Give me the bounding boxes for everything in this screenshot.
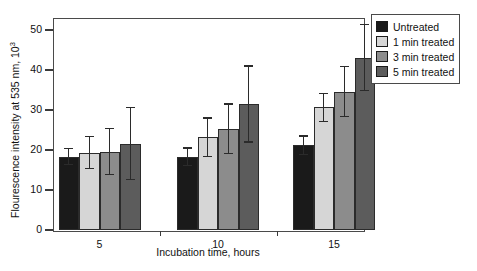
legend-item: 5 min treated (376, 64, 454, 79)
legend-item: Untreated (376, 19, 454, 34)
bar (293, 145, 314, 230)
error-bar-cap-lower (340, 116, 349, 117)
error-bar-cap-upper (319, 93, 328, 94)
legend-item: 3 min treated (376, 49, 454, 64)
error-bar-cap-upper (85, 136, 94, 137)
x-axis-label: Incubation time, hours (53, 246, 363, 258)
chart-legend: Untreated1 min treated3 min treated5 min… (371, 14, 460, 84)
error-bar-stem (228, 104, 229, 154)
legend-swatch (376, 21, 388, 32)
x-axis-tick (160, 231, 161, 236)
legend-item-label: Untreated (393, 21, 439, 33)
error-bar-cap-upper (244, 65, 253, 66)
error-bar-stem (109, 128, 110, 174)
error-bar-cap-lower (126, 179, 135, 180)
legend-swatch (376, 36, 388, 47)
error-bar-stem (248, 66, 249, 142)
y-axis-tick (45, 229, 53, 230)
legend-item-label: 1 min treated (393, 36, 454, 48)
legend-item-label: 3 min treated (393, 51, 454, 63)
error-bar-stem (344, 66, 345, 116)
error-bar-cap-lower (64, 164, 73, 165)
error-bar-cap-lower (85, 168, 94, 169)
error-bar-cap-upper (299, 135, 308, 136)
y-axis-tick-label: 0 (16, 223, 42, 235)
error-bar-stem (364, 24, 365, 90)
error-bar-cap-upper (126, 107, 135, 108)
error-bar-cap-upper (105, 128, 114, 129)
error-bar-cap-upper (183, 147, 192, 148)
x-axis-tick (277, 231, 278, 236)
error-bar-cap-upper (64, 148, 73, 149)
y-axis-tick (45, 109, 53, 110)
error-bar-cap-lower (105, 174, 114, 175)
error-bar-cap-lower (319, 121, 328, 122)
error-bar-cap-lower (360, 90, 369, 91)
y-axis-label: Flourescence intensity at 535 nm, 103 (8, 15, 22, 245)
error-bar-cap-upper (340, 66, 349, 67)
error-bar-stem (187, 148, 188, 166)
y-axis-tick (45, 69, 53, 70)
legend-swatch (376, 66, 388, 77)
error-bar-cap-lower (299, 154, 308, 155)
y-axis-tick-label: 20 (16, 143, 42, 155)
y-axis-tick-label: 50 (16, 23, 42, 35)
y-axis-tick (45, 189, 53, 190)
bar (59, 157, 80, 230)
bar (177, 157, 198, 230)
error-bar-cap-lower (203, 156, 212, 157)
error-bar-cap-lower (183, 165, 192, 166)
error-bar-stem (89, 137, 90, 169)
legend-item: 1 min treated (376, 34, 454, 49)
error-bar-stem (68, 149, 69, 165)
legend-swatch (376, 51, 388, 62)
legend-item-label: 5 min treated (393, 66, 454, 78)
y-axis-tick-label: 30 (16, 103, 42, 115)
bar (314, 107, 335, 230)
y-axis-tick-label: 40 (16, 63, 42, 75)
bar-chart-figure: Flourescence intensity at 535 nm, 103 01… (0, 0, 477, 271)
y-axis-tick (45, 149, 53, 150)
error-bar-cap-lower (244, 141, 253, 142)
error-bar-stem (207, 118, 208, 156)
error-bar-cap-lower (224, 153, 233, 154)
error-bar-stem (130, 108, 131, 180)
error-bar-cap-upper (224, 103, 233, 104)
error-bar-stem (303, 136, 304, 154)
y-axis-tick (45, 29, 53, 30)
error-bar-cap-upper (203, 117, 212, 118)
y-axis-label-exponent: 3 (8, 42, 17, 46)
error-bar-cap-upper (360, 24, 369, 25)
error-bar-stem (323, 93, 324, 121)
y-axis-tick-label: 10 (16, 183, 42, 195)
